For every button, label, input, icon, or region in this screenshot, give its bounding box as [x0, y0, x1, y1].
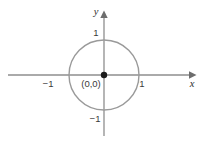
unit-circle-figure: −1 1 1 −1 (0,0) y x [0, 0, 208, 144]
coordinate-plane-svg: −1 1 1 −1 (0,0) y x [0, 0, 208, 144]
origin-coordinate-label: (0,0) [81, 78, 101, 89]
y-tick-label-negative-one: −1 [90, 113, 101, 124]
y-tick-label-one: 1 [93, 27, 98, 38]
x-tick-label-negative-one: −1 [43, 78, 54, 89]
origin-point-dot [101, 72, 107, 78]
x-tick-label-one: 1 [139, 78, 144, 89]
x-axis-name-label: x [189, 78, 195, 89]
y-axis-arrowhead [100, 11, 107, 19]
y-axis-name-label: y [93, 6, 99, 17]
